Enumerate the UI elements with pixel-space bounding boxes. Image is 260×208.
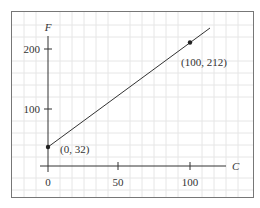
tick-label-50: 50 [113,176,125,188]
tick-label-200: 200 [24,43,41,55]
point-label-2: (100, 212) [181,56,227,69]
tick-label-0: 0 [45,176,51,188]
grid [11,11,254,198]
point-100-212 [188,40,192,44]
tick-label-100y: 100 [24,103,41,115]
x-axis-label: C [232,160,240,172]
point-0-32 [46,145,50,149]
y-axis-label: F [44,21,52,33]
tick-label-100x: 100 [182,176,199,188]
chart: 200 100 0 50 100 F C (0, 32) (100, 212) [0,0,260,208]
point-label-1: (0, 32) [60,143,90,156]
